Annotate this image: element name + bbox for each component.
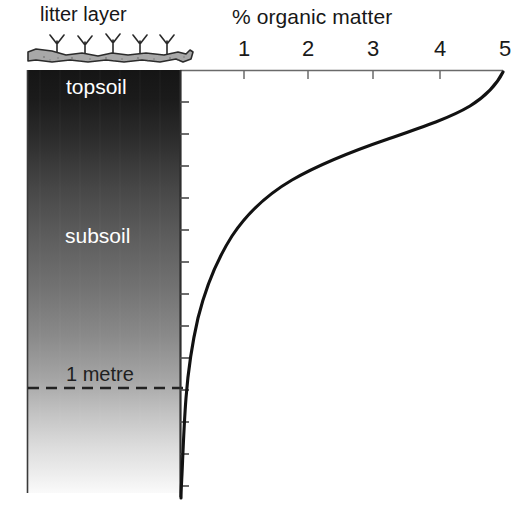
subsoil-label: subsoil	[65, 225, 130, 246]
litter-layer-illustration	[28, 34, 193, 62]
litter-sprouts-icon	[50, 34, 174, 55]
axis-title: % organic matter	[232, 6, 392, 27]
x-tick-label-1: 1	[238, 38, 250, 60]
soil-profile-column	[27, 70, 180, 493]
x-tick-label-3: 3	[367, 38, 379, 60]
depth-marker-label: 1 metre	[66, 364, 134, 384]
x-tick-label-4: 4	[434, 38, 446, 60]
topsoil-label: topsoil	[66, 76, 127, 97]
organic-matter-curve	[181, 72, 503, 498]
x-axis	[180, 70, 503, 79]
litter-band	[28, 49, 193, 62]
x-axis-ticks	[244, 70, 440, 79]
x-tick-label-2: 2	[302, 38, 314, 60]
x-tick-label-5: 5	[499, 38, 511, 60]
litter-layer-label: litter layer	[40, 4, 127, 24]
